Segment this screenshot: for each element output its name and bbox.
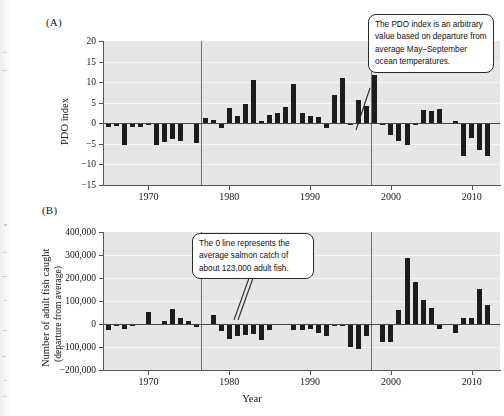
panel-b-callout: The 0 line represents the average salmon… [192,233,314,279]
panel-a-callout: The PDO index is an arbitrary value base… [368,14,494,73]
figure-container: (A) PDO index 20151050−5−10−15 197019801… [0,0,504,416]
